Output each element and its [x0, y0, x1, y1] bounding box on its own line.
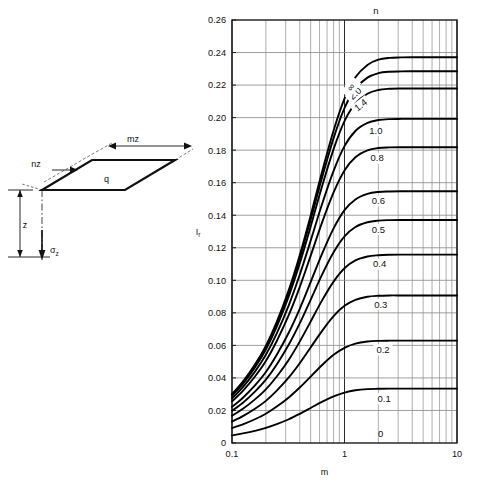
- label-mz: mz: [127, 134, 139, 144]
- corner-leader-line: [22, 184, 42, 190]
- y-tick-label: 0.08: [208, 308, 226, 318]
- y-tick-label: 0: [221, 438, 226, 448]
- mz-arrow-left: [108, 143, 116, 150]
- label-z: z: [23, 220, 28, 230]
- curve-label-n-0.5: 0.5: [372, 224, 385, 235]
- y-tick-label: 0.20: [208, 113, 226, 123]
- label-q: q: [104, 174, 109, 184]
- y-tick-label: 0.10: [208, 276, 226, 286]
- curve-label-n-0.1: 0.1: [378, 393, 391, 404]
- scan-artifact-top: · · · · ·: [395, 2, 421, 8]
- depth-arrow-down: [17, 250, 23, 257]
- curve-labels: 0.10.20.30.40.50.60.81.01.42.0∞: [341, 76, 394, 404]
- x-tick-label: 1: [342, 449, 347, 459]
- curve-label-n-0.3: 0.3: [374, 299, 387, 310]
- x-tick-label: 0.1: [226, 449, 239, 459]
- mz-extension-left: [96, 143, 112, 152]
- curve-label-n-0.6: 0.6: [372, 195, 385, 206]
- loaded-area-sketch: q mz nz z σz: [0, 120, 200, 300]
- y-tick-label: 0.16: [208, 178, 226, 188]
- sketch-svg: q mz nz z σz: [0, 120, 200, 300]
- curve-label-n-0.8: 0.8: [371, 152, 384, 163]
- y-tick-label: 0.18: [208, 146, 226, 156]
- x-axis-tick-labels: 0.1110: [226, 449, 463, 459]
- baseline-zero-label: 0: [378, 428, 383, 439]
- x-axis-label: m: [321, 467, 329, 477]
- y-tick-label: 0.02: [208, 406, 226, 416]
- label-nz: nz: [31, 159, 41, 169]
- sigma-z-arrowhead: [39, 250, 46, 260]
- scan-artifact-bottom: · · · · · · · · ·: [40, 468, 88, 474]
- y-axis-label: Ir: [196, 227, 202, 239]
- chart-svg: 00.020.040.060.080.100.120.140.160.180.2…: [186, 0, 479, 483]
- series-group-title: n: [373, 5, 378, 16]
- figure-page: q mz nz z σz 00.020.040.060.080.100.120.…: [0, 0, 479, 483]
- depth-arrow-up: [17, 190, 23, 197]
- curve-label-n-0.4: 0.4: [373, 258, 386, 269]
- curve-label-n-0.2: 0.2: [376, 344, 389, 355]
- influence-factor-chart: 00.020.040.060.080.100.120.140.160.180.2…: [186, 0, 479, 483]
- y-tick-label: 0.04: [208, 373, 226, 383]
- y-tick-label: 0.12: [208, 243, 226, 253]
- y-tick-label: 0.26: [208, 15, 226, 25]
- y-tick-label: 0.24: [208, 48, 226, 58]
- y-tick-label: 0.14: [208, 211, 226, 221]
- curve-label-n-1.0: 1.0: [369, 125, 382, 136]
- label-sigma-z: σz: [50, 245, 59, 257]
- y-tick-label: 0.22: [208, 80, 226, 90]
- y-tick-label: 0.06: [208, 341, 226, 351]
- x-tick-label: 10: [452, 449, 462, 459]
